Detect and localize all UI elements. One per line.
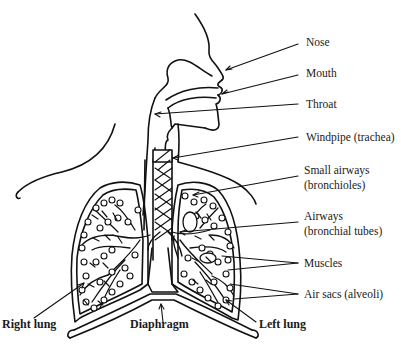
label-small-airways-line1: Small airways xyxy=(304,163,369,178)
label-mouth-text: Mouth xyxy=(306,67,337,79)
label-nose-text: Nose xyxy=(306,36,330,48)
label-muscles: Muscles xyxy=(304,256,342,271)
label-throat: Throat xyxy=(306,97,337,112)
label-windpipe: Windpipe (trachea) xyxy=(306,130,395,145)
label-left-lung-text: Left lung xyxy=(259,317,306,331)
label-right-lung-text: Right lung xyxy=(2,317,56,331)
label-air-sacs: Air sacs (alveoli) xyxy=(304,287,383,302)
label-right-lung: Right lung xyxy=(2,317,56,332)
label-muscles-text: Muscles xyxy=(304,257,342,269)
label-diaphragm: Diaphragm xyxy=(130,317,189,332)
right-lung xyxy=(71,182,150,322)
label-throat-text: Throat xyxy=(306,98,337,110)
label-air-sacs-text: Air sacs (alveoli) xyxy=(304,288,383,300)
label-airways: Airways (bronchial tubes) xyxy=(304,209,382,239)
label-small-airways-line2: (bronchioles) xyxy=(304,178,369,193)
label-left-lung: Left lung xyxy=(259,317,306,332)
label-diaphragm-text: Diaphragm xyxy=(130,317,189,331)
label-small-airways: Small airways (bronchioles) xyxy=(304,163,369,193)
label-windpipe-text: Windpipe (trachea) xyxy=(306,131,395,143)
respiratory-diagram: Nose Mouth Throat Windpipe (trachea) Sma… xyxy=(0,0,401,348)
label-airways-line2: (bronchial tubes) xyxy=(304,224,382,239)
label-mouth: Mouth xyxy=(306,66,337,81)
label-airways-line1: Airways xyxy=(304,209,382,224)
label-nose: Nose xyxy=(306,35,330,50)
head-profile xyxy=(16,14,256,215)
